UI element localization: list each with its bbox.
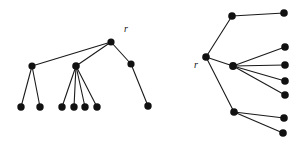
right-tree-internal-node-a[interactable] xyxy=(228,12,236,20)
node-labels: rr xyxy=(124,23,198,70)
label-right-root: r xyxy=(194,59,198,70)
tree-edge xyxy=(233,66,285,95)
right-tree-leaf-node[interactable] xyxy=(281,91,289,99)
tree-edge xyxy=(206,16,232,57)
right-tree-root-node[interactable] xyxy=(202,53,210,61)
tree-edge xyxy=(232,13,284,16)
left-tree-leaf-node[interactable] xyxy=(58,103,65,110)
right-tree-leaf-node[interactable] xyxy=(280,9,288,17)
right-tree-leaf-node[interactable] xyxy=(281,61,289,69)
right-tree-internal-node-c[interactable] xyxy=(230,108,238,116)
tree-edge xyxy=(76,66,85,107)
left-tree-internal-node-a[interactable] xyxy=(28,62,35,69)
left-tree-leaf-node[interactable] xyxy=(144,102,151,109)
left-tree-edges xyxy=(21,42,148,107)
tree-edge xyxy=(76,42,111,66)
tree-edge xyxy=(111,42,131,64)
right-tree-leaf-node[interactable] xyxy=(281,43,289,51)
tree-edge xyxy=(32,66,40,107)
left-tree-leaf-node[interactable] xyxy=(93,103,100,110)
right-tree-leaf-node[interactable] xyxy=(281,77,289,85)
left-tree xyxy=(17,38,151,110)
left-tree-leaf-node[interactable] xyxy=(36,103,43,110)
right-tree-internal-node-b[interactable] xyxy=(229,62,237,70)
left-tree-leaf-node[interactable] xyxy=(70,103,77,110)
left-tree-internal-node-c[interactable] xyxy=(127,60,134,67)
label-left-root: r xyxy=(124,23,128,34)
tree-edge xyxy=(233,66,285,81)
left-tree-leaf-node[interactable] xyxy=(17,103,24,110)
left-tree-internal-node-b[interactable] xyxy=(72,62,80,70)
tree-edge xyxy=(233,65,285,66)
right-tree-edges xyxy=(206,13,285,133)
tree-edge xyxy=(131,64,148,106)
right-tree-leaf-node[interactable] xyxy=(279,129,287,137)
tree-edge xyxy=(76,66,97,107)
right-tree xyxy=(202,9,289,137)
right-tree-leaf-node[interactable] xyxy=(280,114,288,122)
tree-edge xyxy=(233,47,285,66)
tree-diagram-canvas: rr xyxy=(0,0,303,151)
tree-edge xyxy=(21,66,32,107)
tree-diagram-svg: rr xyxy=(0,0,303,151)
left-tree-root-node[interactable] xyxy=(107,38,114,45)
left-tree-leaf-node[interactable] xyxy=(81,103,88,110)
tree-edge xyxy=(32,42,111,66)
left-tree-nodes xyxy=(17,38,151,110)
